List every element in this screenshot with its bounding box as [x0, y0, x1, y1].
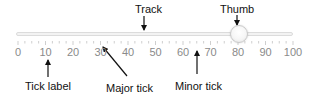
slider-track[interactable] — [16, 32, 293, 36]
tick-label: 80 — [232, 46, 244, 58]
tick-marks — [18, 41, 293, 45]
tick-label: 0 — [15, 46, 21, 58]
tick-label-callout: Tick label — [25, 80, 71, 92]
tick-label: 30 — [94, 46, 106, 58]
thumb-callout: Thumb — [220, 3, 254, 15]
tick-label: 10 — [39, 46, 51, 58]
tick-label: 40 — [122, 46, 134, 58]
slider-thumb[interactable] — [230, 25, 248, 43]
tick-label: 100 — [284, 46, 302, 58]
tick-label: 20 — [67, 46, 79, 58]
track-callout: Track — [135, 3, 162, 15]
tick-label: 90 — [259, 46, 271, 58]
minor-tick-callout: Minor tick — [175, 80, 222, 92]
tick-label: 50 — [149, 46, 161, 58]
tick-label: 60 — [177, 46, 189, 58]
major-tick-callout: Major tick — [106, 82, 153, 94]
tick-label: 70 — [204, 46, 216, 58]
